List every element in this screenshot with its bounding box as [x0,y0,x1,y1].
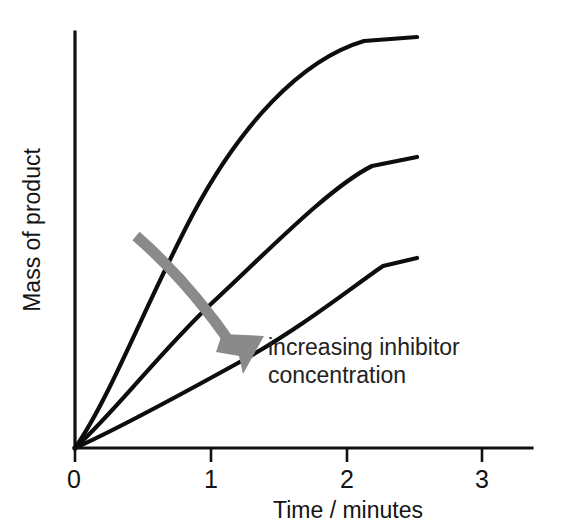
y-axis-title: Mass of product [19,148,45,312]
rate-of-reaction-chart: 0 1 2 3 Time / minutes Mass of product i… [0,0,581,528]
x-tick-label-3: 3 [475,465,489,493]
annotation-line-2: concentration [268,362,406,388]
x-tick-label-0: 0 [67,465,81,493]
x-tick-label-1: 1 [204,465,218,493]
x-axis-title: Time / minutes [273,497,423,523]
x-tick-label-2: 2 [340,465,354,493]
annotation-line-1: increasing inhibitor [268,334,460,360]
